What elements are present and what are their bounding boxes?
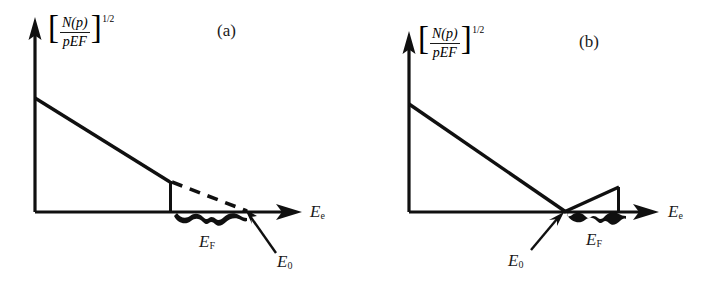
panel-a-y-axis-label: [ N(p) pEF ] 1/2 <box>48 14 114 50</box>
panel-b-ylabel-denominator: pEF <box>431 44 459 61</box>
panel-a-x-axis-label: Ee <box>310 203 325 221</box>
panel-b-fermi-label-subscript: F <box>596 238 602 249</box>
panel-a-dashed-extrapolation <box>172 182 247 211</box>
panel-a-e0-label: E0 <box>277 253 292 271</box>
panel-b-e0-label: E0 <box>508 252 523 270</box>
panel-b-label: (b) <box>579 33 599 50</box>
panel-b-fermi-label-base: E <box>586 230 596 249</box>
panel-a-ylabel-left-bracket: [ <box>48 12 59 42</box>
panel-b-ylabel-fraction: N(p) pEF <box>429 26 461 61</box>
panel-b-plot <box>354 0 707 293</box>
panel-a-ylabel-exponent: 1/2 <box>102 14 114 24</box>
panel-b-x-axis-label-base: E <box>668 202 678 221</box>
panel-b-x-axis-label: Ee <box>668 203 683 221</box>
panel-a-y-axis <box>29 17 42 212</box>
panel-b-ylabel-exponent: 1/2 <box>472 25 484 35</box>
panel-b-e0-label-subscript: 0 <box>518 259 523 270</box>
panel-b-y-axis <box>403 31 416 212</box>
panel-b-x-axis-label-subscript: e <box>678 210 682 221</box>
panel-a-ylabel-denominator: pEF <box>61 33 89 50</box>
panel-a-e0-pointer <box>245 209 276 253</box>
panel-b-kurie-line <box>409 104 566 212</box>
panel-b-fermi-label: EF <box>586 231 602 249</box>
panel-a-fermi-label: EF <box>199 233 215 251</box>
panel-a-x-axis-label-base: E <box>310 202 320 221</box>
panel-a-ylabel-fraction: N(p) pEF <box>59 15 91 50</box>
panel-b-ylabel-numerator: N(p) <box>430 26 460 43</box>
panel-b-e0-label-base: E <box>508 251 518 270</box>
figure-root: (a) [ N(p) pEF ] 1/2 Ee EF E0 <box>0 0 707 293</box>
panel-b-ylabel-left-bracket: [ <box>418 23 429 53</box>
panel-a-ylabel-numerator: N(p) <box>60 15 90 32</box>
panel-a-e0-label-subscript: 0 <box>287 260 292 271</box>
panel-a-e0-label-base: E <box>277 252 287 271</box>
panel-b-ylabel-right-bracket: ] <box>461 23 472 53</box>
panel-b-lobe-rise <box>564 187 619 212</box>
panel-a-x-axis-label-subscript: e <box>320 210 324 221</box>
panel-a-ylabel-right-bracket: ] <box>91 12 102 42</box>
panel-a-fermi-label-subscript: F <box>209 240 215 251</box>
panel-b-e0-pointer <box>531 212 564 250</box>
panel-a-fermi-brace <box>174 213 247 226</box>
panel-a-x-axis <box>35 204 302 220</box>
panel-a-label: (a) <box>217 22 236 39</box>
panel-b-y-axis-label: [ N(p) pEF ] 1/2 <box>418 25 484 61</box>
panel-a-kurie-line <box>35 98 170 182</box>
panel-a-fermi-label-base: E <box>199 232 209 251</box>
